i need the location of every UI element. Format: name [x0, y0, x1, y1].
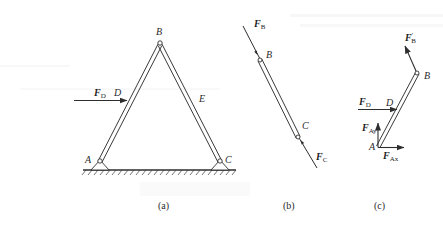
ground-support	[82, 170, 236, 175]
label-A: A	[368, 141, 376, 152]
label-B: B	[266, 49, 272, 60]
arrowhead-FC	[301, 140, 305, 144]
pin-B	[415, 71, 419, 75]
label-B: B	[156, 26, 162, 37]
figure-c: F′B B FD D FAy A FAx (c)	[358, 31, 430, 212]
label-FAx: FAx	[382, 150, 399, 163]
label-A: A	[84, 154, 92, 165]
label-FB-prime: F′B	[404, 31, 416, 45]
label-FAy: FAy	[361, 122, 377, 135]
bar-BC-isolated	[258, 59, 300, 138]
figure-b: FB B C FC (b)	[243, 18, 328, 212]
caption-a: (a)	[158, 200, 169, 212]
label-D: D	[113, 87, 122, 98]
pin-B	[258, 58, 262, 62]
pin-C	[218, 159, 222, 163]
bar-AB	[98, 44, 162, 163]
pin-C	[296, 135, 300, 139]
bar-BC	[158, 44, 222, 163]
caption-c: (c)	[374, 200, 385, 212]
pin-B	[158, 41, 162, 45]
statics-diagram: B A C D E FD (a) FB B C FC (b)	[0, 0, 443, 227]
pin-A	[98, 159, 102, 163]
force-arrow-FB-prime	[405, 46, 416, 71]
label-D: D	[385, 97, 394, 108]
label-C: C	[225, 154, 232, 165]
label-E: E	[198, 93, 205, 104]
label-FD: FD	[358, 96, 371, 109]
label-FB: FB	[253, 18, 266, 31]
label-C: C	[302, 120, 309, 131]
label-FC: FC	[315, 151, 328, 164]
caption-b: (b)	[283, 200, 295, 212]
arrowhead-FB	[254, 51, 257, 56]
label-B: B	[424, 70, 430, 81]
